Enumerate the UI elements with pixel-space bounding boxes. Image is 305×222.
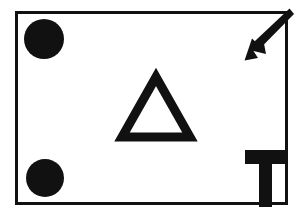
circle-top-left-shape <box>24 19 64 59</box>
letter-t-stem <box>259 150 272 207</box>
drawing-canvas: Line drawing with geometric shapes Fille… <box>0 0 305 222</box>
figure-svg <box>0 0 305 222</box>
circle-bottom-left-shape <box>26 159 64 197</box>
